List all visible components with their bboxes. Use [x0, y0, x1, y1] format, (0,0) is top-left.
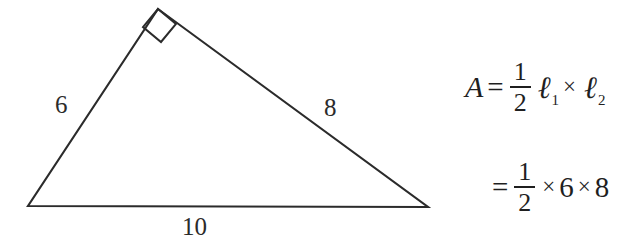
triangle-svg [0, 0, 450, 248]
fraction-numerator-2: 1 [514, 158, 535, 186]
formula-fraction-2: 1 2 [514, 158, 535, 216]
fraction-denominator-2: 2 [514, 188, 535, 216]
formula-times-operator-2: × [538, 175, 559, 198]
formula-value-6: 6 [559, 173, 574, 202]
formula-times-operator-3: × [574, 175, 595, 198]
side-label-left-leg: 6 [55, 92, 68, 117]
formula-variable-a: A [465, 72, 485, 102]
fraction-numerator-1: 1 [510, 58, 531, 86]
ell-symbol-1: ℓ [535, 72, 551, 103]
diagram-page: 6 8 10 A = 1 2 ℓ 1 × ℓ 2 = [0, 0, 638, 248]
formula-equals-1: = [485, 73, 506, 102]
side-label-right-leg: 8 [324, 95, 337, 120]
fraction-denominator-1: 2 [510, 88, 531, 116]
formula-equals-2: = [490, 173, 511, 202]
side-label-base: 10 [182, 214, 207, 239]
formula-value-8: 8 [595, 173, 610, 202]
ell-subscript-1: 1 [552, 93, 560, 108]
formula-factor-ell-2: ℓ 2 [581, 72, 604, 103]
formula-line-2: = 1 2 × 6 × 8 [490, 158, 609, 216]
area-formula: A = 1 2 ℓ 1 × ℓ 2 = 1 2 [455, 0, 638, 248]
formula-times-operator-1: × [559, 75, 580, 98]
formula-factor-ell-1: ℓ 1 [535, 72, 558, 103]
ell-symbol-2: ℓ [581, 72, 597, 103]
ell-subscript-2: 2 [598, 93, 606, 108]
formula-fraction-1: 1 2 [510, 58, 531, 116]
triangle-figure: 6 8 10 [0, 0, 450, 248]
triangle-outline [28, 9, 428, 207]
formula-line-1: A = 1 2 ℓ 1 × ℓ 2 [465, 58, 606, 116]
